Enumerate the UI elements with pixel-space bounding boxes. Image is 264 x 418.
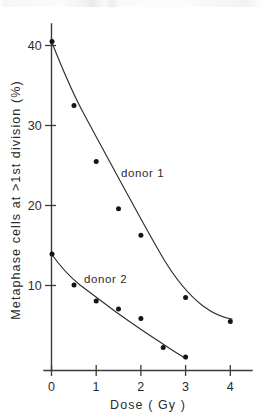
data-point — [161, 345, 166, 350]
x-tick-label-4: 4 — [227, 380, 234, 394]
data-point — [94, 299, 99, 304]
x-tick-label-3: 3 — [182, 380, 189, 394]
donor-1-fit-curve — [52, 42, 233, 320]
data-point — [183, 355, 188, 360]
data-point — [94, 159, 99, 164]
y-tick-marks — [45, 46, 56, 286]
y-tick-label-40: 40 — [28, 39, 42, 53]
series-label-donor-2: donor 2 — [84, 273, 127, 285]
data-point — [50, 39, 55, 44]
chart-canvas: 10 20 30 40 0 1 2 3 4 Dose ( Gy ) Metaph… — [0, 0, 264, 418]
data-point — [72, 283, 77, 288]
x-tick-label-0: 0 — [48, 380, 55, 394]
series-label-donor-1: donor 1 — [121, 167, 164, 179]
donor-1-points — [50, 39, 233, 324]
donor-2-fit-curve — [52, 254, 187, 359]
y-tick-labels: 10 20 30 40 — [28, 39, 42, 293]
data-point — [116, 206, 121, 211]
y-axis-title: Metaphase cells at >1st division (%) — [9, 80, 23, 319]
data-point — [183, 295, 188, 300]
donor-2-points — [50, 252, 189, 360]
data-point — [138, 316, 143, 321]
x-tick-label-1: 1 — [93, 380, 100, 394]
x-tick-label-2: 2 — [137, 380, 144, 394]
data-point — [138, 233, 143, 238]
data-point — [72, 103, 77, 108]
data-point — [50, 252, 55, 257]
figure-panel: 10 20 30 40 0 1 2 3 4 Dose ( Gy ) Metaph… — [0, 0, 264, 418]
y-tick-label-10: 10 — [28, 279, 42, 293]
x-tick-labels: 0 1 2 3 4 — [48, 380, 234, 394]
y-tick-label-20: 20 — [28, 199, 42, 213]
x-axis-title: Dose ( Gy ) — [110, 398, 186, 412]
y-tick-label-30: 30 — [28, 119, 42, 133]
data-point — [116, 307, 121, 312]
data-point — [228, 319, 233, 324]
